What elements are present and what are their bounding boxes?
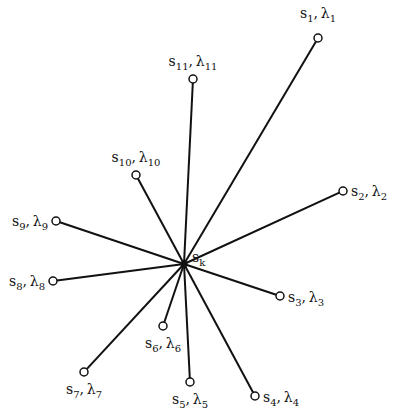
node-label-7: s7, λ7 — [66, 381, 102, 400]
node-4 — [251, 392, 259, 400]
node-label-6: s6, λ6 — [145, 335, 181, 354]
node-label-1: s1, λ1 — [300, 5, 336, 24]
node-label-3: s3, λ3 — [288, 289, 324, 308]
node-label-2: s2, λ2 — [351, 183, 387, 202]
edge-k-11 — [184, 83, 193, 264]
hub-label: sk — [192, 249, 206, 268]
node-2 — [339, 187, 347, 195]
edge-k-5 — [184, 264, 190, 378]
node-7 — [80, 368, 88, 376]
node-label-4: s4, λ4 — [263, 389, 299, 408]
node-10 — [132, 171, 140, 179]
star-graph-diagram: s1, λ1s2, λ2s3, λ3s4, λ4s5, λ5s6, λ6s7, … — [0, 0, 396, 419]
node-label-9: s9, λ9 — [12, 213, 48, 232]
node-11 — [189, 75, 197, 83]
node-label-10: s10, λ10 — [112, 149, 161, 168]
node-1 — [314, 34, 322, 42]
node-label-8: s8, λ8 — [9, 273, 45, 292]
node-6 — [159, 322, 167, 330]
node-5 — [186, 378, 194, 386]
edge-k-8 — [57, 264, 184, 280]
edge-k-7 — [87, 264, 184, 369]
node-label-5: s5, λ5 — [172, 391, 208, 410]
node-3 — [276, 292, 284, 300]
nodes — [49, 34, 347, 400]
edge-k-1 — [184, 41, 316, 264]
node-8 — [49, 277, 57, 285]
hub-dot — [181, 261, 188, 268]
edge-k-2 — [184, 193, 339, 264]
labels: s1, λ1s2, λ2s3, λ3s4, λ4s5, λ5s6, λ6s7, … — [9, 5, 387, 410]
edges — [57, 41, 339, 392]
node-9 — [52, 217, 60, 225]
node-label-11: s11, λ11 — [169, 53, 218, 72]
edge-k-6 — [164, 264, 184, 322]
